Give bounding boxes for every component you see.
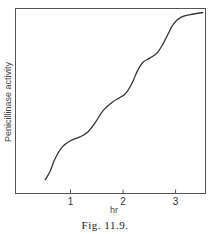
x-axis-label: hr [110,205,118,215]
y-axis-label: Penicillinase activity [3,61,13,142]
x-ticks: 123 [68,190,179,207]
x-tick-label: 2 [120,196,126,207]
plot-frame [16,9,206,194]
x-tick-label: 1 [68,196,74,207]
series-line-penicillinase-activity [45,13,203,180]
figure-caption: Fig. 11.9. [82,219,129,231]
x-tick-label: 3 [173,196,179,207]
chart: 123 hr Penicillinase activity Fig. 11.9. [0,0,211,234]
